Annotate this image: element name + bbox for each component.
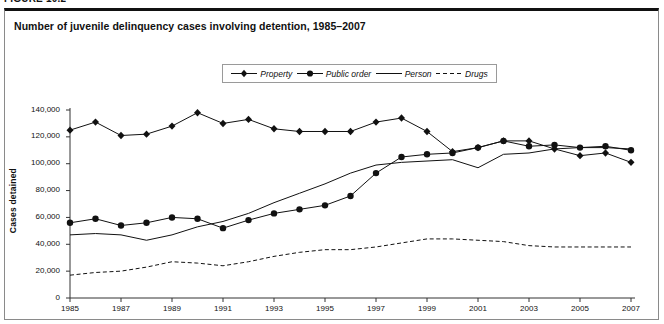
series-marker-diamond bbox=[220, 120, 227, 127]
x-tick-label: 2005 bbox=[563, 304, 597, 313]
series-marker-circle bbox=[143, 220, 149, 226]
series-marker-diamond bbox=[92, 118, 99, 125]
x-tick-label: 1989 bbox=[155, 304, 189, 313]
series-marker-circle bbox=[602, 143, 608, 149]
series-marker-circle bbox=[424, 151, 430, 157]
x-tick-label: 1987 bbox=[104, 304, 138, 313]
series-marker-circle bbox=[475, 144, 481, 150]
series-marker-diamond bbox=[373, 118, 380, 125]
series-marker-circle bbox=[169, 214, 175, 220]
x-tick-label: 1997 bbox=[359, 304, 393, 313]
series-marker-diamond bbox=[577, 152, 584, 159]
y-tick-label: 0 bbox=[18, 293, 60, 302]
series-marker-diamond bbox=[322, 128, 329, 135]
y-tick-label: 40,000 bbox=[18, 239, 60, 248]
series-marker-circle bbox=[322, 202, 328, 208]
series-marker-circle bbox=[296, 206, 302, 212]
series-marker-diamond bbox=[118, 132, 125, 139]
series-marker-diamond bbox=[398, 114, 405, 121]
x-tick-label: 2007 bbox=[614, 304, 648, 313]
series-marker-diamond bbox=[628, 159, 635, 166]
series-marker-circle bbox=[398, 154, 404, 160]
series-line-drugs bbox=[70, 239, 631, 275]
series-marker-circle bbox=[67, 220, 73, 226]
series-marker-circle bbox=[118, 222, 124, 228]
x-tick-label: 1995 bbox=[308, 304, 342, 313]
x-tick-label: 1985 bbox=[53, 304, 87, 313]
y-tick-label: 20,000 bbox=[18, 266, 60, 275]
series-marker-diamond bbox=[169, 122, 176, 129]
figure-root: FIGURE 10.2 Number of juvenile delinquen… bbox=[0, 0, 664, 324]
series-marker-diamond bbox=[602, 149, 609, 156]
y-tick-label: 60,000 bbox=[18, 212, 60, 221]
series-marker-diamond bbox=[296, 128, 303, 135]
series-marker-diamond bbox=[424, 128, 431, 135]
series-marker-circle bbox=[551, 142, 557, 148]
series-marker-circle bbox=[373, 170, 379, 176]
series-marker-circle bbox=[245, 217, 251, 223]
series-marker-diamond bbox=[67, 126, 74, 133]
series-marker-diamond bbox=[347, 128, 354, 135]
series-marker-circle bbox=[271, 210, 277, 216]
chart-plot-area bbox=[0, 0, 664, 324]
series-marker-diamond bbox=[271, 125, 278, 132]
series-line-property bbox=[70, 113, 631, 163]
y-tick-label: 120,000 bbox=[18, 131, 60, 140]
series-marker-circle bbox=[500, 138, 506, 144]
series-marker-circle bbox=[449, 150, 455, 156]
x-tick-label: 1993 bbox=[257, 304, 291, 313]
x-tick-label: 1999 bbox=[410, 304, 444, 313]
series-marker-circle bbox=[92, 216, 98, 222]
x-tick-label: 1991 bbox=[206, 304, 240, 313]
series-marker-diamond bbox=[194, 109, 201, 116]
x-tick-label: 2001 bbox=[461, 304, 495, 313]
series-line-public-order bbox=[70, 141, 631, 228]
y-tick-label: 80,000 bbox=[18, 185, 60, 194]
y-tick-label: 140,000 bbox=[18, 105, 60, 114]
series-marker-circle bbox=[220, 225, 226, 231]
series-marker-circle bbox=[347, 193, 353, 199]
series-marker-diamond bbox=[245, 116, 252, 123]
series-marker-circle bbox=[628, 147, 634, 153]
series-marker-diamond bbox=[143, 130, 150, 137]
x-tick-label: 2003 bbox=[512, 304, 546, 313]
series-marker-circle bbox=[526, 143, 532, 149]
series-marker-circle bbox=[194, 216, 200, 222]
y-tick-label: 100,000 bbox=[18, 158, 60, 167]
